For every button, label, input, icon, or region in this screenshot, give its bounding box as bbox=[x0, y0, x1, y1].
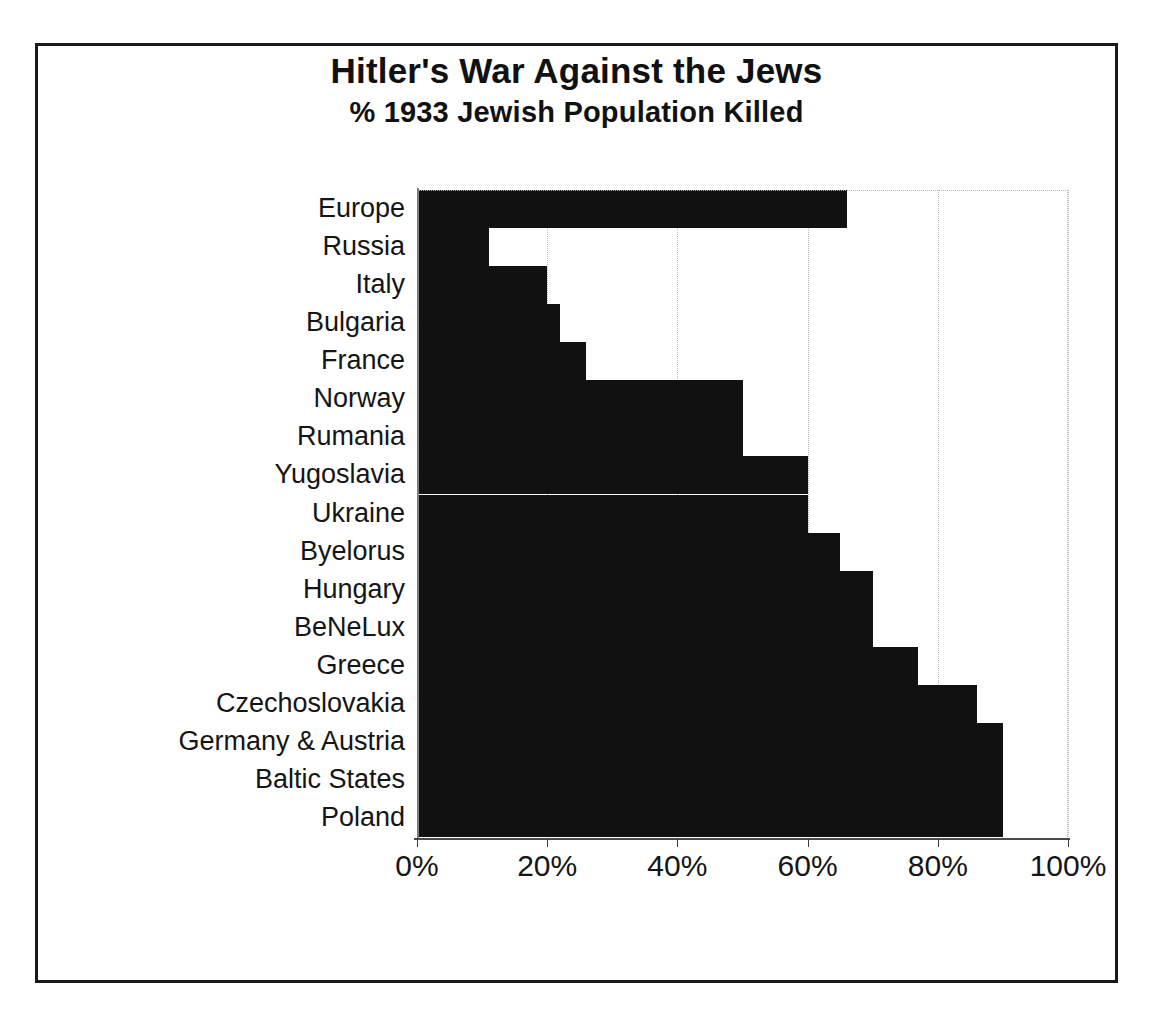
x-axis-tick-label: 0% bbox=[395, 848, 438, 884]
bar-hungary[interactable] bbox=[417, 571, 873, 609]
x-axis-tick-label: 60% bbox=[778, 848, 838, 884]
y-axis-label: Czechoslovakia bbox=[0, 688, 405, 718]
y-axis-label: Italy bbox=[0, 269, 405, 299]
plot-area bbox=[417, 190, 1068, 837]
bar-row[interactable] bbox=[417, 685, 1068, 723]
x-axis-tick-label: 20% bbox=[517, 848, 577, 884]
bar-row[interactable] bbox=[417, 266, 1068, 304]
bar-row[interactable] bbox=[417, 799, 1068, 837]
bar-row[interactable] bbox=[417, 761, 1068, 799]
bar-row[interactable] bbox=[417, 723, 1068, 761]
x-axis-tick-mark bbox=[677, 838, 678, 847]
bar-row[interactable] bbox=[417, 495, 1068, 533]
bar-ukraine[interactable] bbox=[417, 495, 808, 533]
bar-row[interactable] bbox=[417, 456, 1068, 494]
bar-row[interactable] bbox=[417, 571, 1068, 609]
chart-figure: Hitler's War Against the Jews % 1933 Jew… bbox=[0, 0, 1152, 1023]
bar-row[interactable] bbox=[417, 647, 1068, 685]
title-block: Hitler's War Against the Jews % 1933 Jew… bbox=[35, 50, 1118, 130]
bar-bulgaria[interactable] bbox=[417, 304, 560, 342]
bar-russia[interactable] bbox=[417, 228, 489, 266]
y-axis-label: BeNeLux bbox=[0, 612, 405, 642]
y-axis-label: Germany & Austria bbox=[0, 726, 405, 756]
bar-baltic-states[interactable] bbox=[417, 761, 1003, 799]
y-axis-label: Hungary bbox=[0, 574, 405, 604]
bar-norway[interactable] bbox=[417, 380, 743, 418]
bar-row[interactable] bbox=[417, 609, 1068, 647]
bar-benelux[interactable] bbox=[417, 609, 873, 647]
x-axis-tick-mark bbox=[1068, 838, 1069, 847]
bar-row[interactable] bbox=[417, 190, 1068, 228]
x-axis-tick-mark bbox=[547, 838, 548, 847]
x-axis-tick-label: 80% bbox=[908, 848, 968, 884]
bar-germany-austria[interactable] bbox=[417, 723, 1003, 761]
y-axis-label: France bbox=[0, 345, 405, 375]
bar-czechoslovakia[interactable] bbox=[417, 685, 977, 723]
y-axis-label: Yugoslavia bbox=[0, 459, 405, 489]
chart-title: Hitler's War Against the Jews bbox=[35, 50, 1118, 92]
x-axis-line bbox=[414, 838, 1070, 840]
bar-row[interactable] bbox=[417, 304, 1068, 342]
y-axis-label: Poland bbox=[0, 802, 405, 832]
y-axis-label: Norway bbox=[0, 383, 405, 413]
x-axis-tick-label: 100% bbox=[1030, 848, 1107, 884]
bar-row[interactable] bbox=[417, 342, 1068, 380]
x-axis-tick-label: 40% bbox=[647, 848, 707, 884]
bar-row[interactable] bbox=[417, 418, 1068, 456]
y-axis-label: Rumania bbox=[0, 421, 405, 451]
x-axis-tick-mark bbox=[808, 838, 809, 847]
y-axis-label: Greece bbox=[0, 650, 405, 680]
bar-byelorus[interactable] bbox=[417, 533, 840, 571]
bar-europe[interactable] bbox=[417, 190, 847, 228]
gridline bbox=[1068, 190, 1069, 837]
y-axis-label: Europe bbox=[0, 193, 405, 223]
x-axis-tick-mark bbox=[417, 838, 418, 847]
bar-row[interactable] bbox=[417, 228, 1068, 266]
y-axis-label: Baltic States bbox=[0, 764, 405, 794]
bar-poland[interactable] bbox=[417, 799, 1003, 837]
y-axis-label: Russia bbox=[0, 231, 405, 261]
chart-subtitle: % 1933 Jewish Population Killed bbox=[35, 94, 1118, 130]
bar-yugoslavia[interactable] bbox=[417, 456, 808, 494]
bar-row[interactable] bbox=[417, 380, 1068, 418]
bar-italy[interactable] bbox=[417, 266, 547, 304]
y-axis-label: Bulgaria bbox=[0, 307, 405, 337]
y-axis-label: Byelorus bbox=[0, 536, 405, 566]
bar-france[interactable] bbox=[417, 342, 586, 380]
bar-row[interactable] bbox=[417, 533, 1068, 571]
bar-greece[interactable] bbox=[417, 647, 918, 685]
x-axis-tick-mark bbox=[938, 838, 939, 847]
y-axis-line bbox=[417, 188, 419, 839]
bar-rumania[interactable] bbox=[417, 418, 743, 456]
y-axis-label: Ukraine bbox=[0, 498, 405, 528]
